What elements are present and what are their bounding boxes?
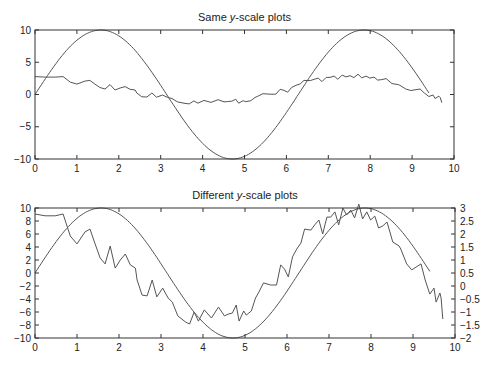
y-tick-label: 6 — [25, 229, 31, 240]
chart-title: Same y-scale plots — [198, 11, 291, 23]
y-tick-label: −4 — [20, 294, 32, 305]
x-tick-label: 5 — [242, 342, 248, 353]
x-tick-label: 3 — [158, 163, 164, 174]
x-tick-label: 8 — [368, 342, 374, 353]
y-right-tick-label: 2 — [460, 229, 466, 240]
axes-box — [35, 208, 455, 338]
chart-title: Different y-scale plots — [192, 189, 298, 201]
x-tick-label: 6 — [284, 342, 290, 353]
figure: Same y-scale plots012345678910−10−50510 … — [0, 0, 493, 367]
x-tick-label: 9 — [409, 163, 415, 174]
y-right-tick-label: 1.5 — [460, 242, 474, 253]
y-right-tick-label: −1.5 — [460, 320, 480, 331]
y-right-tick-label: −0.5 — [460, 294, 480, 305]
y-tick-label: −5 — [20, 121, 32, 132]
x-tick-label: 0 — [32, 163, 38, 174]
x-tick-label: 8 — [367, 163, 373, 174]
y-right-tick-label: 1 — [460, 255, 466, 266]
x-tick-label: 1 — [74, 342, 80, 353]
y-tick-label: 8 — [25, 216, 31, 227]
bottom-panel-different-y-scale: Different y-scale plots012345678910−10−8… — [14, 189, 480, 353]
y-tick-label: −2 — [20, 281, 32, 292]
y-tick-label: −10 — [14, 154, 31, 165]
axes-box — [35, 30, 454, 159]
x-tick-label: 10 — [448, 163, 460, 174]
noisy-line — [35, 204, 443, 324]
y-tick-label: −10 — [14, 333, 31, 344]
y-right-tick-label: 0 — [460, 281, 466, 292]
x-tick-label: 4 — [200, 163, 206, 174]
sine-line — [35, 208, 430, 338]
y-tick-label: 2 — [25, 255, 31, 266]
x-tick-label: 10 — [449, 342, 461, 353]
y-tick-label: −8 — [20, 320, 32, 331]
top-panel-same-y-scale: Same y-scale plots012345678910−10−50510 — [14, 11, 460, 174]
sine-line — [35, 30, 429, 159]
y-tick-label: 5 — [25, 57, 31, 68]
x-tick-label: 1 — [74, 163, 80, 174]
y-tick-label: 0 — [25, 268, 31, 279]
x-tick-label: 6 — [284, 163, 290, 174]
x-tick-label: 2 — [116, 163, 122, 174]
y-tick-label: 0 — [25, 89, 31, 100]
y-right-tick-label: −2 — [460, 333, 472, 344]
x-tick-label: 3 — [158, 342, 164, 353]
y-tick-label: −6 — [20, 307, 32, 318]
x-tick-label: 0 — [32, 342, 38, 353]
x-tick-label: 4 — [200, 342, 206, 353]
x-tick-label: 2 — [116, 342, 122, 353]
y-tick-label: 10 — [20, 203, 32, 214]
y-tick-label: 10 — [20, 25, 32, 36]
x-tick-label: 7 — [326, 342, 332, 353]
y-right-tick-label: 0.5 — [460, 268, 474, 279]
y-right-tick-label: 3 — [460, 203, 466, 214]
y-right-tick-label: −1 — [460, 307, 472, 318]
x-tick-label: 7 — [326, 163, 332, 174]
noisy-line — [35, 74, 442, 104]
x-tick-label: 5 — [242, 163, 248, 174]
x-tick-label: 9 — [410, 342, 416, 353]
y-right-tick-label: 2.5 — [460, 216, 474, 227]
y-tick-label: 4 — [25, 242, 31, 253]
